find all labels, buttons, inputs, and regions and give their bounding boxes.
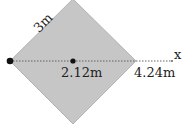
left-vertex-point — [7, 58, 14, 65]
center-point-label: 2.12m — [61, 65, 102, 80]
center-point — [70, 58, 75, 63]
axis-end-dot — [171, 60, 173, 62]
diamond-diagram: 3m x 2.12m 4.24m — [0, 0, 183, 128]
x-axis-label: x — [174, 47, 182, 62]
right-vertex-label: 4.24m — [134, 65, 175, 80]
